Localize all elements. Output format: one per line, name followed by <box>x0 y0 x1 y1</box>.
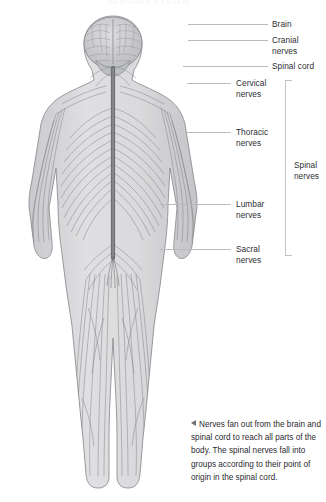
human-nervous-system-illustration <box>18 8 208 498</box>
label-lumbar-nerves: Lumbar nerves <box>236 199 264 221</box>
label-cranial-nerves: Cranial nerves <box>272 35 326 57</box>
leader-line-cranial-nerves <box>188 40 268 41</box>
leader-line-lumbar-nerves <box>160 204 231 205</box>
label-thoracic-nerves: Thoracic nerves <box>236 127 268 149</box>
figure-caption-text: Nerves fan out from the brain and spinal… <box>191 420 321 482</box>
leader-line-cervical-nerves <box>187 83 231 84</box>
leader-line-brain <box>188 24 268 25</box>
leader-line-spinal-cord <box>183 66 268 67</box>
leader-line-thoracic-nerves <box>185 132 231 133</box>
label-brain: Brain <box>272 19 292 30</box>
label-cervical-nerves: Cervical nerves <box>236 78 266 100</box>
page-header-text: NERVOUS SYSTEM <box>108 0 218 5</box>
left-triangle-icon <box>191 420 196 426</box>
label-spinal-cord: Spinal cord <box>272 61 314 72</box>
figure-caption: Nerves fan out from the brain and spinal… <box>191 418 325 484</box>
label-sacral-nerves: Sacral nerves <box>236 244 261 266</box>
leader-line-sacral-nerves <box>160 249 231 250</box>
spinal-nerves-bracket <box>285 80 292 256</box>
label-spinal-nerves-group: Spinal nerves <box>294 160 319 182</box>
nervous-system-figure-page: NERVOUS SYSTEM <box>0 0 326 502</box>
